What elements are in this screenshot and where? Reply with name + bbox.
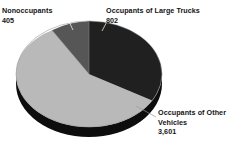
label-other-vehicles: Occupants of Other Vehicles 3,601 [158, 108, 226, 137]
pie-chart-figure: Nonoccupants 405 Occupants of Large Truc… [0, 0, 233, 148]
label-nonoccupants-name: Nonoccupants [2, 6, 53, 15]
label-other-vehicles-name-line1: Occupants of Other [158, 108, 226, 117]
label-large-trucks: Occupants of Large Trucks 802 [106, 6, 200, 25]
label-large-trucks-name: Occupants of Large Trucks [106, 6, 200, 15]
label-large-trucks-value: 802 [106, 16, 200, 26]
label-nonoccupants-value: 405 [2, 16, 53, 26]
label-nonoccupants: Nonoccupants 405 [2, 6, 53, 25]
label-other-vehicles-value: 3,601 [158, 127, 226, 137]
label-other-vehicles-name-line2: Vehicles [158, 118, 226, 128]
